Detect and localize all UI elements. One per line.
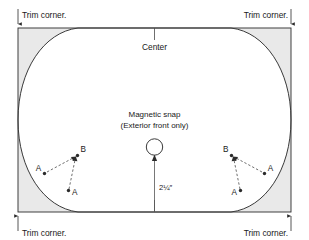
left-dot-b	[76, 154, 79, 157]
trim-corner-label-bottom-right: Trim corner.	[244, 228, 288, 238]
left-dash-a-lower-to-b	[69, 160, 75, 189]
left-dot-a-upper	[43, 172, 46, 175]
right-dash-a-upper-to-b	[236, 158, 262, 172]
trim-corner-label-top-right: Trim corner.	[244, 10, 288, 20]
center-label: Center	[142, 42, 167, 52]
left-label-b: B	[81, 145, 87, 154]
magnetic-snap-label-line1: Magnetic snap	[128, 110, 181, 119]
right-dash-a-lower-to-b	[234, 160, 240, 189]
snap-dimension-label: 2¼″	[159, 183, 173, 192]
right-label-a-upper: A	[268, 164, 274, 173]
left-point-group: A B A	[36, 145, 87, 197]
right-dot-a-lower	[239, 189, 242, 192]
pattern-diagram: Center Magnetic snap (Exterior front onl…	[0, 0, 309, 240]
left-label-a-lower: A	[72, 188, 78, 197]
right-point-group: B A A	[223, 145, 274, 197]
magnetic-snap-circle	[146, 139, 162, 155]
right-label-a-lower: A	[232, 188, 238, 197]
left-label-a-upper: A	[36, 164, 42, 173]
right-dot-a-upper	[263, 172, 266, 175]
magnetic-snap-label-line2: (Exterior front only)	[120, 121, 188, 130]
trim-corner-label-bottom-left: Trim corner.	[22, 228, 66, 238]
trim-corner-label-top-left: Trim corner.	[22, 10, 66, 20]
diagram-canvas: Center Magnetic snap (Exterior front onl…	[0, 0, 309, 240]
left-dash-a-upper-to-b	[47, 158, 73, 172]
right-label-b: B	[223, 145, 229, 154]
right-dot-b	[230, 154, 233, 157]
left-dot-a-lower	[67, 189, 70, 192]
